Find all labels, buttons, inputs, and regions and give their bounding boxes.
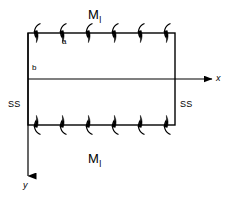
- moment-label-top: Ml: [88, 8, 101, 25]
- axis-label-x: x: [216, 74, 221, 83]
- dimension-label-a: a: [62, 38, 66, 46]
- moment-label-top-subscript: l: [99, 15, 101, 25]
- moment-label-bottom: Ml: [88, 152, 101, 169]
- support-label-right: SS: [180, 100, 192, 109]
- moment-loaded-plate-diagram: Ml Ml a b SS SS x y: [0, 0, 232, 198]
- diagram-canvas: [0, 0, 232, 198]
- moment-label-top-symbol: M: [88, 7, 99, 22]
- dimension-label-b: b: [32, 64, 36, 72]
- moment-label-bottom-symbol: M: [88, 151, 99, 166]
- axis-label-y: y: [23, 181, 28, 190]
- moment-label-bottom-subscript: l: [99, 159, 101, 169]
- support-label-left: SS: [8, 100, 20, 109]
